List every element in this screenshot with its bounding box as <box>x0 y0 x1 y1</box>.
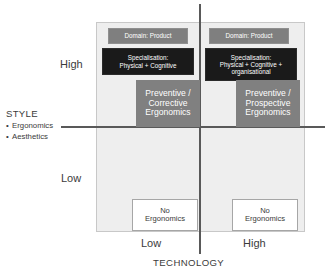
outcome-line-1: Preventive / <box>145 88 190 98</box>
outcome-line-2: Ergonomics <box>145 214 185 223</box>
quadrant-diagram: Domain: Product Specialisation: Physical… <box>0 0 334 277</box>
top-right-specialisation-label: Specialisation: Physical + Cognitive + o… <box>220 54 282 75</box>
vertical-axis-line <box>199 4 201 254</box>
bottom-right-outcome-label: No Ergonomics <box>245 207 285 224</box>
bottom-left-outcome-box: No Ergonomics <box>132 199 198 231</box>
outcome-line-2: Corrective <box>148 98 187 108</box>
bullet-icon: • <box>6 132 9 141</box>
top-left-specialisation-box: Specialisation: Physical + Cognitive <box>102 48 194 75</box>
x-axis-tick-low: Low <box>141 237 161 249</box>
bullet-icon: • <box>6 121 9 130</box>
y-axis-tick-high: High <box>60 58 83 70</box>
y-axis-subitem-aesthetics: • Aesthetics <box>6 132 53 141</box>
top-right-domain-label: Domain: Product <box>226 32 273 39</box>
y-axis-tick-low: Low <box>61 172 81 184</box>
bottom-right-outcome-box: No Ergonomics <box>232 199 298 231</box>
y-axis-subitem-label: Ergonomics <box>12 121 53 130</box>
top-right-domain-box: Domain: Product <box>209 28 289 44</box>
outcome-line-3: Ergonomics <box>245 107 290 117</box>
top-right-outcome-label: Preventive / Prospective Ergonomics <box>245 89 290 118</box>
y-axis-title: STYLE <box>6 108 53 119</box>
top-left-outcome-box: Preventive / Corrective Ergonomics <box>136 80 200 127</box>
top-left-domain-label: Domain: Product <box>125 32 172 39</box>
top-left-specialisation-label: Specialisation: Physical + Cognitive <box>120 54 177 68</box>
spec-line-1: Specialisation: <box>231 54 272 61</box>
outcome-line-3: Ergonomics <box>145 107 190 117</box>
outcome-line-1: Preventive / <box>245 88 290 98</box>
y-axis-subitem-ergonomics: • Ergonomics <box>6 121 53 130</box>
spec-line-3: organisational <box>231 68 270 75</box>
spec-line-1: Specialisation: <box>128 54 169 61</box>
outcome-line-2: Prospective <box>246 98 291 108</box>
x-axis-title: TECHNOLOGY <box>153 257 224 268</box>
top-right-specialisation-box: Specialisation: Physical + Cognitive + o… <box>205 48 297 81</box>
y-axis-subitem-label: Aesthetics <box>12 132 48 141</box>
top-right-outcome-box: Preventive / Prospective Ergonomics <box>236 80 300 127</box>
spec-line-2: Physical + Cognitive + <box>220 61 282 68</box>
y-axis-title-block: STYLE • Ergonomics • Aesthetics <box>6 108 53 141</box>
top-left-domain-box: Domain: Product <box>108 28 188 44</box>
spec-line-2: Physical + Cognitive <box>120 62 177 69</box>
top-left-outcome-label: Preventive / Corrective Ergonomics <box>145 89 190 118</box>
x-axis-tick-high: High <box>243 237 266 249</box>
bottom-left-outcome-label: No Ergonomics <box>145 207 185 224</box>
outcome-line-2: Ergonomics <box>245 214 285 223</box>
